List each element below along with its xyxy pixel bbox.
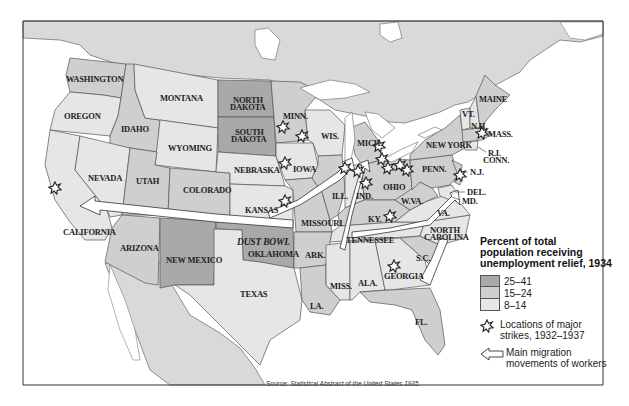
label-nj: N.J.	[470, 168, 484, 176]
label-md: MD.	[462, 197, 478, 205]
label-maine: MAINE	[479, 95, 507, 103]
lake-michigan	[345, 112, 355, 165]
label-oklahoma: OKLAHOMA	[248, 250, 299, 258]
label-utah: UTAH	[136, 177, 159, 185]
label-dust-bowl: DUST BOWL	[237, 238, 290, 246]
label-wyoming: WYOMING	[168, 144, 212, 152]
label-miss: MISS.	[330, 282, 352, 290]
legend-migration: Main migration movements of workers	[480, 347, 629, 369]
label-minn: MINN.	[283, 112, 308, 120]
label-mich: MICH.	[357, 139, 382, 147]
legend-row-high: 25–41	[480, 275, 629, 287]
label-kansas: KANSAS	[245, 206, 278, 214]
label-oregon: OREGON	[64, 112, 101, 120]
state-florida	[360, 288, 445, 355]
label-montana: MONTANA	[160, 94, 203, 102]
legend-scale: 25–41 15–24 8–14	[480, 275, 629, 311]
legend: Percent of total population receiving un…	[480, 236, 629, 369]
swatch-low	[480, 299, 500, 311]
label-vt: VT.	[462, 110, 475, 118]
label-new-mexico: NEW MEXICO	[166, 256, 222, 264]
legend-title: Percent of total population receiving un…	[480, 236, 629, 269]
state-new-mexico	[160, 218, 216, 288]
label-nebraska: NEBRASKA	[234, 166, 280, 174]
label-south-dakota-2: DAKOTA	[231, 135, 266, 143]
label-ill: ILL.	[332, 192, 348, 200]
source-note: Source: Statistical Abstract of the Unit…	[266, 380, 419, 387]
label-georgia: GEORGIA	[384, 272, 424, 280]
label-sc: S.C.	[416, 254, 430, 262]
swatch-high	[480, 275, 500, 287]
label-ohio: OHIO	[383, 183, 405, 191]
label-colorado: COLORADO	[183, 186, 231, 194]
label-iowa: IOWA	[293, 165, 316, 173]
legend-row-low: 8–14	[480, 299, 629, 311]
label-wis: WIS.	[321, 132, 339, 140]
label-ky: KY.	[368, 215, 382, 223]
label-california: CALIFORNIA	[63, 228, 116, 236]
label-conn: CONN.	[483, 156, 509, 164]
label-ind: IND.	[356, 192, 373, 200]
migration-arrow-icon	[480, 347, 504, 361]
label-wva: W.VA.	[401, 197, 423, 205]
label-mass: MASS.	[488, 130, 513, 138]
label-idaho: IDAHO	[121, 125, 149, 133]
label-nc-2: CAROLINA	[424, 233, 469, 241]
label-nh: N.H.	[471, 122, 487, 130]
state-new-york	[410, 115, 465, 160]
legend-strikes: Locations of major strikes, 1932–1937	[480, 319, 629, 341]
label-washington: WASHINGTON	[66, 75, 123, 83]
label-new-york: NEW YORK	[426, 141, 472, 149]
label-fl: FL.	[415, 318, 427, 326]
label-la: LA.	[310, 302, 323, 310]
label-nevada: NEVADA	[88, 174, 122, 182]
label-ala: ALA.	[358, 279, 377, 287]
label-penn: PENN.	[422, 165, 446, 173]
label-arizona: ARIZONA	[120, 244, 159, 252]
swatch-medium	[480, 287, 500, 299]
label-north-dakota-2: DAKOTA	[230, 103, 265, 111]
label-missouri: MISSOURI	[301, 219, 342, 227]
label-va: VA.	[437, 209, 450, 217]
label-ark: ARK.	[305, 251, 325, 259]
legend-row-medium: 15–24	[480, 287, 629, 299]
label-texas: TEXAS	[240, 290, 267, 298]
label-del: DEL.	[467, 188, 486, 196]
label-tennessee: TENNESSEE	[346, 236, 394, 244]
strike-icon	[480, 319, 494, 333]
